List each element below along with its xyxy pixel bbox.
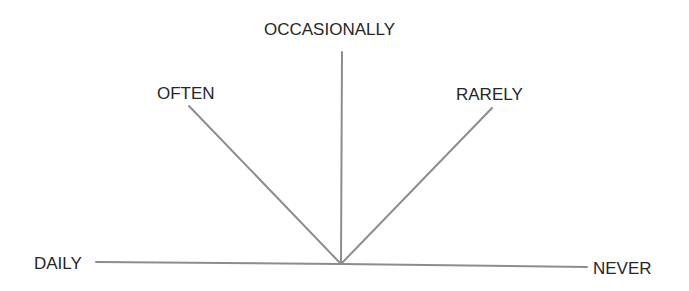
frequency-rays [0, 0, 689, 291]
ray-never [341, 264, 587, 267]
label-often: OFTEN [157, 85, 215, 102]
ray-daily [96, 262, 341, 264]
ray-occasionally [341, 52, 342, 264]
label-rarely: RARELY [456, 86, 523, 103]
frequency-diagram: OCCASIONALLY OFTEN RARELY DAILY NEVER [0, 0, 689, 291]
label-occasionally: OCCASIONALLY [264, 21, 395, 38]
label-never: NEVER [593, 260, 652, 277]
ray-often [189, 106, 341, 264]
label-daily: DAILY [34, 255, 82, 272]
ray-rarely [341, 108, 492, 264]
